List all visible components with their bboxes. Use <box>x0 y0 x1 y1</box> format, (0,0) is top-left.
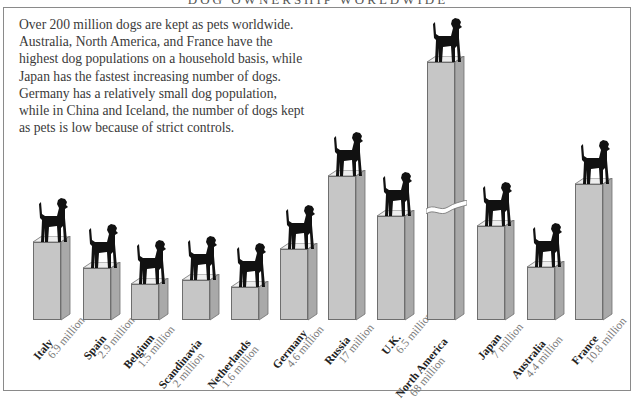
dog-silhouette-icon <box>233 243 267 287</box>
dog-silhouette-icon <box>577 140 611 184</box>
bar-front-face <box>33 242 61 320</box>
dog-silhouette-icon <box>379 172 413 216</box>
bar-north-america <box>427 56 466 320</box>
bar-front-face <box>280 249 308 320</box>
bar-u-k <box>377 210 416 320</box>
bar-france <box>575 178 614 320</box>
bar-front-face <box>231 287 259 320</box>
dog-silhouette-icon <box>479 182 513 226</box>
dog-silhouette-icon <box>529 223 563 267</box>
bar-front-face <box>427 62 455 320</box>
bar-italy <box>33 236 72 320</box>
dog-silhouette-icon <box>282 205 316 249</box>
bar-front-face <box>83 268 111 320</box>
dog-silhouette-icon <box>133 240 167 284</box>
bar-front-face <box>328 176 356 320</box>
bar-belgium <box>131 278 170 320</box>
intro-text: Over 200 million dogs are kept as pets w… <box>19 16 309 136</box>
bar-front-face <box>477 226 505 320</box>
bar-front-face <box>377 216 405 320</box>
bar-germany <box>280 243 319 320</box>
axis-break-icon <box>426 200 467 214</box>
bar-front-face <box>131 284 159 320</box>
bar-russia <box>328 170 367 320</box>
dog-silhouette-icon <box>184 236 218 280</box>
dog-silhouette-icon <box>85 224 119 268</box>
bar-front-face <box>182 280 210 320</box>
bar-japan <box>477 220 516 320</box>
bar-front-face <box>575 184 603 320</box>
dog-silhouette-icon <box>429 18 463 62</box>
bar-front-face <box>527 267 555 320</box>
bar-scandinavia <box>182 274 221 320</box>
dog-silhouette-icon <box>330 132 364 176</box>
dog-silhouette-icon <box>35 198 69 242</box>
bar-australia <box>527 261 566 320</box>
